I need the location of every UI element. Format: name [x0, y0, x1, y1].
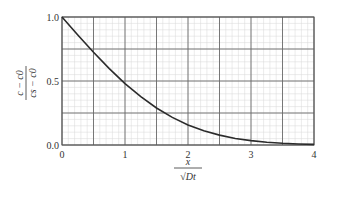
chart: 01234 0.00.51.0 c − c0 cs − c0 x √Dt	[0, 0, 338, 197]
x-tick-label: 3	[249, 149, 254, 160]
y-axis-label: c − c0 cs − c0	[14, 66, 38, 100]
x-tick-label: 1	[123, 149, 128, 160]
x-axis-label: x √Dt	[174, 156, 202, 182]
x-label-denominator: √Dt	[180, 171, 196, 182]
y-tick-label: 0.0	[47, 140, 60, 151]
y-tick-labels: 0.00.51.0	[47, 12, 60, 151]
x-tick-label: 0	[60, 149, 65, 160]
y-label-denominator: cs − c0	[27, 68, 38, 98]
x-label-numerator: x	[185, 156, 191, 167]
y-label-numerator: c − c0	[14, 70, 25, 96]
y-tick-label: 0.5	[47, 76, 60, 87]
x-tick-label: 4	[312, 149, 317, 160]
y-tick-label: 1.0	[47, 12, 60, 23]
